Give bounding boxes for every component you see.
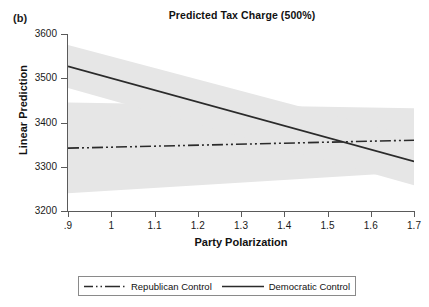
legend-item-republican: Republican Control bbox=[84, 281, 212, 292]
x-tick-label: 1.5 bbox=[311, 221, 345, 231]
x-tick bbox=[371, 212, 372, 217]
plot-canvas bbox=[68, 34, 414, 211]
y-tick bbox=[61, 211, 67, 212]
x-tick bbox=[414, 212, 415, 217]
x-tick bbox=[328, 212, 329, 217]
y-tick bbox=[61, 78, 67, 79]
y-tick bbox=[61, 123, 67, 124]
legend-swatch-dash-dot-dot bbox=[84, 282, 126, 291]
figure: (b) Predicted Tax Charge (500%) 36003500… bbox=[0, 0, 429, 307]
x-tick-label: 1 bbox=[94, 221, 128, 231]
x-tick bbox=[241, 212, 242, 217]
y-tick-label: 3600 bbox=[17, 29, 57, 39]
y-tick bbox=[61, 167, 67, 168]
y-tick bbox=[61, 34, 67, 35]
y-tick-label: 3200 bbox=[17, 206, 57, 216]
x-tick-label: 1.3 bbox=[224, 221, 258, 231]
x-axis-title: Party Polarization bbox=[68, 236, 414, 248]
legend-item-democratic: Democratic Control bbox=[222, 281, 350, 292]
y-axis-title: Linear Prediction bbox=[17, 40, 29, 180]
x-tick bbox=[155, 212, 156, 217]
panel-label: (b) bbox=[13, 12, 27, 24]
x-tick-label: 1.7 bbox=[397, 221, 429, 231]
x-tick-label: 1.4 bbox=[267, 221, 301, 231]
y-axis-line bbox=[67, 34, 68, 212]
legend-label-republican: Republican Control bbox=[131, 281, 212, 292]
legend-label-democratic: Democratic Control bbox=[269, 281, 350, 292]
x-tick bbox=[68, 212, 69, 217]
x-tick bbox=[198, 212, 199, 217]
x-tick-label: 1.1 bbox=[138, 221, 172, 231]
legend: Republican Control Democratic Control bbox=[78, 276, 356, 296]
x-tick bbox=[284, 212, 285, 217]
legend-swatch-solid bbox=[222, 282, 264, 291]
x-tick-label: 1.2 bbox=[181, 221, 215, 231]
plot-area bbox=[68, 34, 414, 211]
x-tick-label: .9 bbox=[51, 221, 85, 231]
chart-title: Predicted Tax Charge (500%) bbox=[68, 9, 416, 21]
x-tick-label: 1.6 bbox=[354, 221, 388, 231]
x-tick bbox=[111, 212, 112, 217]
